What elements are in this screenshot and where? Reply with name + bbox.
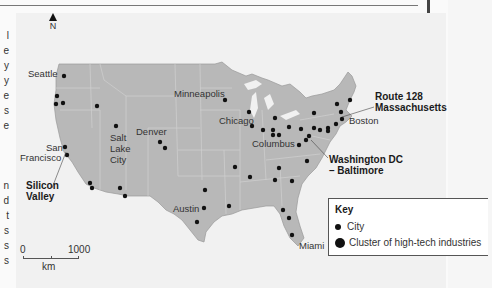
- large-dot-icon: [335, 238, 345, 248]
- label-francisco: Francisco: [20, 153, 61, 163]
- label-austin: Austin: [173, 204, 199, 214]
- left-column-text-fragment: l e y y e s e n d t s s s: [0, 0, 10, 288]
- label-seattle: Seattle: [28, 69, 58, 79]
- label-boston: Boston: [349, 116, 379, 126]
- map-key: Key City Cluster of high-tech industries: [328, 198, 488, 256]
- label-city: City: [110, 155, 126, 165]
- label-minneapolis: Minneapolis: [174, 89, 225, 99]
- label-valley: Valley: [26, 192, 54, 202]
- label-denver: Denver: [136, 127, 167, 137]
- label-miami: Miami: [299, 241, 324, 251]
- label-salt: Salt: [110, 133, 126, 143]
- north-arrow-icon: [49, 13, 57, 21]
- label-washington: Washington DC: [329, 155, 403, 165]
- label-lake: Lake: [110, 144, 131, 154]
- label-baltimore: – Baltimore: [329, 166, 383, 176]
- north-arrow: N: [46, 13, 60, 31]
- key-title: Key: [335, 204, 353, 215]
- label-chicago: Chicago: [219, 116, 254, 126]
- scale-tick-mid: [51, 256, 52, 259]
- small-dot-icon: [335, 224, 341, 230]
- key-item-cluster: Cluster of high-tech industries: [335, 237, 481, 248]
- key-item-city: City: [335, 221, 364, 232]
- label-silicon: Silicon: [26, 181, 59, 191]
- label-route-128: Route 128: [375, 92, 423, 102]
- label-columbus: Columbus: [252, 139, 295, 149]
- label-massachusetts: Massachusetts: [375, 103, 447, 113]
- top-rule: [0, 0, 418, 6]
